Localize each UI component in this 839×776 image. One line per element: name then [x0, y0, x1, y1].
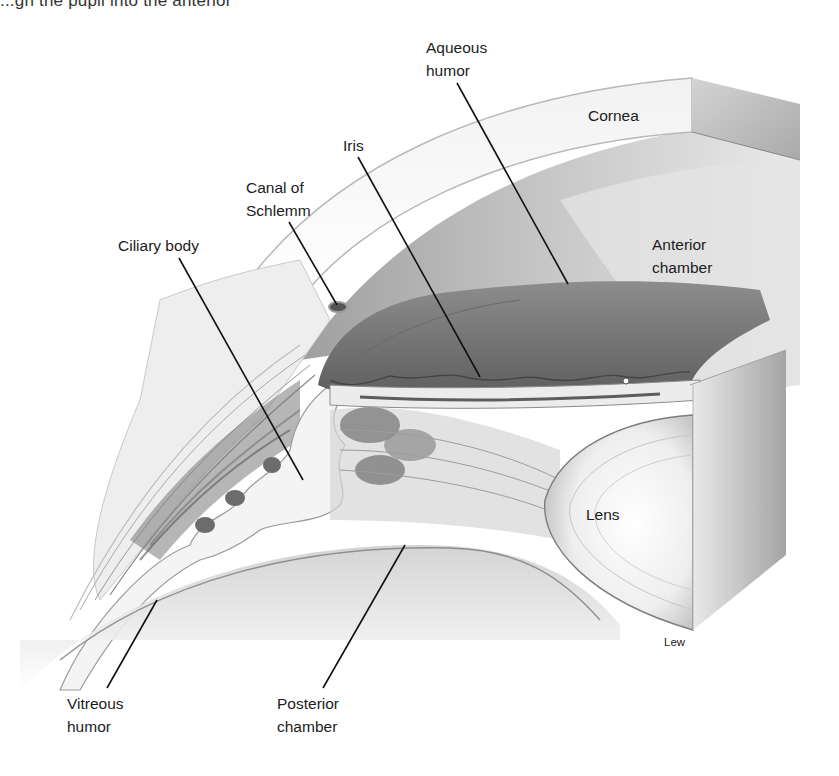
label-lens: Lens	[586, 503, 620, 526]
zonule-region	[330, 407, 560, 540]
label-vitreous-humor: Vitreous humor	[67, 692, 124, 738]
label-canal-of-schlemm: Canal of Schlemm	[246, 176, 311, 222]
canal-of-schlemm-structure	[329, 302, 347, 312]
label-posterior-chamber: Posterior chamber	[277, 692, 339, 738]
artist-signature: Lew	[664, 636, 685, 648]
label-aqueous-humor: Aqueous humor	[426, 36, 487, 82]
label-cornea: Cornea	[588, 104, 639, 127]
label-anterior-chamber: Anterior chamber	[652, 233, 712, 279]
label-iris: Iris	[343, 134, 364, 157]
eye-cross-section-illustration	[0, 0, 839, 776]
tissue-block-face	[690, 350, 786, 630]
label-ciliary-body: Ciliary body	[118, 234, 199, 257]
